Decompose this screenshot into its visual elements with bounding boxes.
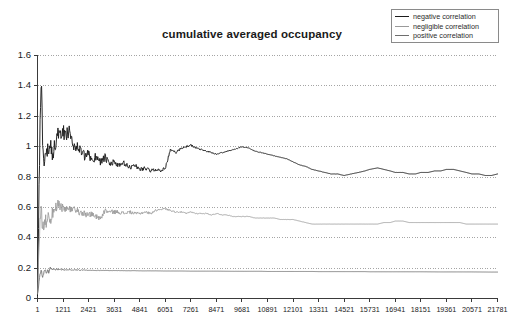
y-tick-label: 1.2 bbox=[3, 111, 31, 121]
y-tick-label: 1.4 bbox=[3, 80, 31, 90]
y-tick-label: 0.4 bbox=[3, 232, 31, 242]
series-line-negative-correlation bbox=[38, 86, 498, 295]
y-tick-label: 0 bbox=[3, 293, 31, 303]
y-tick-label: 0.8 bbox=[3, 172, 31, 182]
y-tick-label: 0.2 bbox=[3, 263, 31, 273]
y-tick-label: 1 bbox=[3, 141, 31, 151]
series-line-positive-correlation bbox=[38, 267, 498, 294]
y-tick-label: 0.6 bbox=[3, 202, 31, 212]
x-tick-label: 21781 bbox=[478, 305, 512, 314]
y-tick-label: 1.6 bbox=[3, 50, 31, 60]
series-line-negligible-correlation bbox=[38, 200, 498, 294]
